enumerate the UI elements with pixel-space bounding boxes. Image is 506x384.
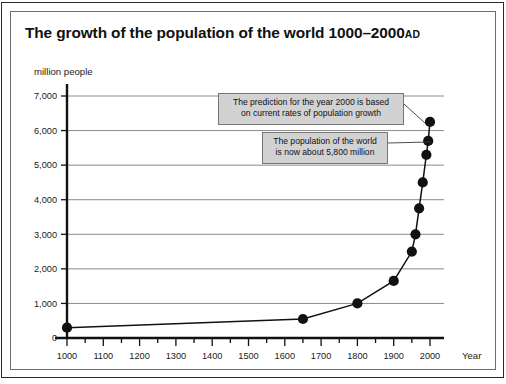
x-axis-tick-label: 1500 [238, 351, 258, 361]
x-axis-tick-label: 1800 [347, 351, 367, 361]
x-axis-tick-label: 1900 [383, 351, 403, 361]
data-point-marker [410, 229, 420, 239]
population-growth-chart-figure: The growth of the population of the worl… [0, 0, 506, 384]
data-point-marker [425, 117, 435, 127]
y-axis-tick-label: 4,000 [34, 195, 57, 205]
data-point-marker [298, 314, 308, 324]
x-axis-tick-label: 2000 [420, 351, 440, 361]
y-axis-tick-label: 6,000 [34, 126, 57, 136]
data-point-marker [62, 323, 72, 333]
x-axis-tick-label: 1200 [129, 351, 149, 361]
data-point-marker [418, 177, 428, 187]
annotation-current-population: The population of the world is now about… [262, 132, 388, 164]
annotation-prediction: The prediction for the year 2000 is base… [218, 93, 404, 125]
x-axis-tick-label: 1000 [57, 351, 77, 361]
x-axis-tick-label: 1600 [275, 351, 295, 361]
x-axis-tick-label: 1100 [93, 351, 113, 361]
x-axis-tick-label: 1700 [311, 351, 331, 361]
y-axis-tick-label: 5,000 [34, 160, 57, 170]
y-axis-tick-label: 3,000 [34, 230, 57, 240]
annotation-leader-line [404, 104, 426, 124]
y-axis-tick-label: 2,000 [34, 264, 57, 274]
data-point-marker [421, 150, 431, 160]
data-point-marker [389, 276, 399, 286]
y-axis-tick-label: 1,000 [34, 299, 57, 309]
data-point-marker [423, 136, 433, 146]
data-point-marker [414, 203, 424, 213]
x-axis-tick-label: 1400 [202, 351, 222, 361]
plot-area: 01,0002,0003,0004,0005,0006,0007,0001000… [0, 0, 506, 384]
data-point-marker [407, 246, 417, 256]
y-axis-tick-label: 7,000 [34, 91, 57, 101]
x-axis-tick-label: 1300 [166, 351, 186, 361]
data-point-marker [352, 298, 362, 308]
